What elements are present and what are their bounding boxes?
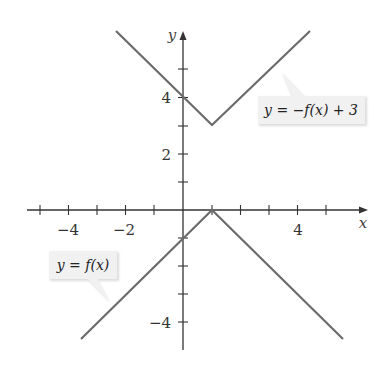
x-axis-arrow-icon: [359, 207, 368, 214]
x-tick-label: 4: [293, 221, 303, 239]
y-tick-label: 4: [161, 89, 171, 107]
x-axis: −4 −2 4 x: [27, 205, 368, 239]
callout-label: y = −f(x) + 3: [263, 102, 358, 118]
callout-neg-f-plus-3: y = −f(x) + 3: [258, 73, 367, 126]
y-tick-label: −4: [149, 314, 171, 332]
x-tick-label: −4: [57, 221, 79, 239]
callout-label: y = f(x): [56, 257, 110, 273]
y-axis: 4 2 −4 y: [149, 26, 188, 350]
chart-canvas: −4 −2 4 x 4 2 −4 y y = −f(x) + 3: [0, 0, 392, 365]
x-axis-label: x: [359, 214, 368, 232]
x-tick-label: −2: [113, 221, 135, 239]
y-axis-label: y: [167, 26, 177, 44]
callout-f: y = f(x): [49, 251, 119, 303]
y-axis-arrow-icon: [180, 31, 187, 40]
y-tick-label: 2: [161, 146, 171, 164]
